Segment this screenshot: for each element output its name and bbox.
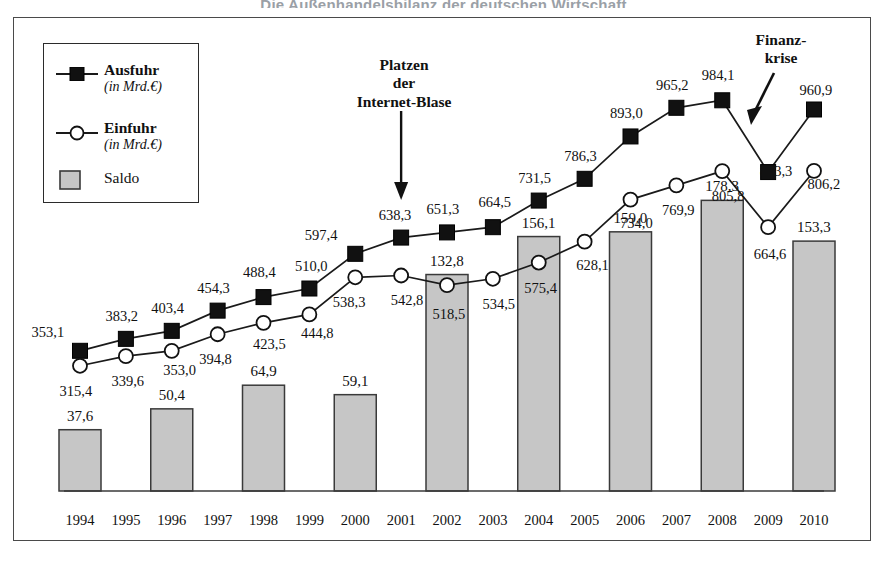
einfuhr-marker — [257, 316, 271, 330]
einfuhr-marker — [715, 164, 729, 178]
ausfuhr-value-label: 651,3 — [427, 202, 460, 217]
ausfuhr-value-label: 664,5 — [478, 195, 511, 210]
annotation-financial-crisis: Finanz- krise — [726, 31, 836, 68]
einfuhr-marker — [73, 359, 87, 373]
saldo-bar — [518, 237, 560, 491]
x-axis-label-2002: 2002 — [433, 513, 462, 528]
saldo-bar-label: 132,8 — [430, 254, 464, 269]
einfuhr-value-label: 542,8 — [391, 293, 424, 308]
x-axis-label-1996: 1996 — [157, 513, 186, 528]
einfuhr-marker — [211, 327, 225, 341]
saldo-bar-label: 64,9 — [251, 364, 277, 379]
internet-bubble-arrow-head — [394, 182, 408, 200]
saldo-bar-label: 37,6 — [67, 409, 93, 424]
ausfuhr-marker — [164, 323, 179, 338]
ausfuhr-marker — [73, 343, 88, 358]
saldo-bar — [151, 409, 193, 491]
ausfuhr-marker — [210, 303, 225, 318]
legend-label-saldo: Saldo — [104, 169, 139, 186]
ausfuhr-value-label: 353,1 — [32, 325, 65, 340]
einfuhr-value-label: 339,6 — [111, 374, 144, 389]
einfuhr-marker — [440, 278, 454, 292]
einfuhr-value-label: 806,2 — [808, 177, 841, 192]
ausfuhr-marker — [715, 93, 730, 108]
x-axis-label-2000: 2000 — [341, 513, 370, 528]
financial-crisis-arrow-shaft — [754, 73, 774, 113]
einfuhr-value-label: 353,0 — [163, 363, 196, 378]
einfuhr-marker-icon — [56, 125, 98, 141]
einfuhr-value-label: 664,6 — [754, 247, 787, 262]
einfuhr-marker — [348, 270, 362, 284]
annotation-line-3: Internet-Blase — [319, 93, 489, 111]
saldo-bar — [610, 232, 652, 491]
ausfuhr-marker — [302, 281, 317, 296]
saldo-bar — [334, 395, 376, 491]
einfuhr-value-label: 444,8 — [301, 326, 334, 341]
annotation-line-2: der — [319, 74, 489, 92]
x-axis-label-2008: 2008 — [708, 513, 737, 528]
ausfuhr-value-label: 786,3 — [564, 149, 597, 164]
einfuhr-marker — [119, 349, 133, 363]
saldo-bar — [59, 430, 101, 491]
financial-crisis-arrow-head — [747, 106, 762, 125]
x-axis-label-1999: 1999 — [295, 513, 324, 528]
ausfuhr-marker — [118, 331, 133, 346]
ausfuhr-value-label: 960,9 — [800, 83, 833, 98]
legend-label-ausfuhr: Ausfuhr — [104, 61, 159, 78]
ausfuhr-value-label: 965,2 — [656, 78, 689, 93]
x-axis-label-2005: 2005 — [570, 513, 599, 528]
legend-sub-ausfuhr: (in Mrd.€) — [104, 79, 162, 95]
legend-label-einfuhr: Einfuhr — [104, 119, 157, 136]
x-axis-label-2010: 2010 — [800, 513, 829, 528]
saldo-bar-label: 50,4 — [159, 388, 185, 403]
einfuhr-value-label: 315,4 — [60, 384, 93, 399]
annotation-internet-bubble: Platzen der Internet-Blase — [319, 56, 489, 111]
ausfuhr-marker — [807, 102, 822, 117]
page-title: Die Außenhandelsbilanz der deutschen Wir… — [0, 0, 887, 8]
ausfuhr-value-label: 403,4 — [151, 301, 184, 316]
einfuhr-value-label: 538,3 — [333, 295, 366, 310]
annotation-line-2: krise — [726, 49, 836, 67]
legend-sub-einfuhr: (in Mrd.€) — [104, 137, 162, 153]
x-axis-label-2006: 2006 — [616, 513, 645, 528]
saldo-bar — [243, 385, 285, 491]
chart-legend: Ausfuhr (in Mrd.€) Einfuhr (in Mrd.€) — [43, 43, 199, 203]
x-axis-label-1994: 1994 — [66, 513, 95, 528]
ausfuhr-value-label: 510,0 — [295, 259, 328, 274]
annotation-line-1: Platzen — [319, 56, 489, 74]
einfuhr-value-label: 394,8 — [199, 352, 232, 367]
einfuhr-marker — [624, 193, 638, 207]
ausfuhr-marker — [394, 230, 409, 245]
chart-frame: Ausfuhr (in Mrd.€) Einfuhr (in Mrd.€) — [13, 17, 871, 541]
einfuhr-marker — [394, 268, 408, 282]
ausfuhr-marker — [348, 246, 363, 261]
einfuhr-marker — [761, 220, 775, 234]
ausfuhr-marker — [669, 100, 684, 115]
einfuhr-value-label: 518,5 — [433, 307, 466, 322]
einfuhr-value-label: 534,5 — [482, 297, 515, 312]
einfuhr-marker — [486, 272, 500, 286]
einfuhr-marker — [302, 307, 316, 321]
x-axis-label-2003: 2003 — [478, 513, 507, 528]
saldo-swatch-icon — [59, 170, 81, 190]
ausfuhr-marker-icon — [56, 67, 98, 81]
x-axis-label-1997: 1997 — [203, 513, 232, 528]
x-axis-label-2004: 2004 — [524, 513, 553, 528]
ausfuhr-marker — [623, 129, 638, 144]
einfuhr-value-label: 575,4 — [524, 281, 557, 296]
einfuhr-value-label: 734,0 — [620, 216, 653, 231]
einfuhr-value-label: 769,9 — [662, 203, 695, 218]
einfuhr-marker — [165, 344, 179, 358]
saldo-bar-label: 156,1 — [522, 216, 556, 231]
einfuhr-marker — [669, 178, 683, 192]
x-axis-label-2001: 2001 — [387, 513, 416, 528]
saldo-bar — [793, 241, 835, 491]
ausfuhr-value-label: 893,0 — [610, 106, 643, 121]
ausfuhr-marker — [440, 225, 455, 240]
saldo-bar-label: 59,1 — [342, 374, 368, 389]
ausfuhr-marker — [531, 193, 546, 208]
ausfuhr-value-label: 597,4 — [305, 228, 338, 243]
ausfuhr-marker — [577, 171, 592, 186]
annotation-line-1: Finanz- — [726, 31, 836, 49]
einfuhr-value-label: 628,1 — [576, 258, 609, 273]
